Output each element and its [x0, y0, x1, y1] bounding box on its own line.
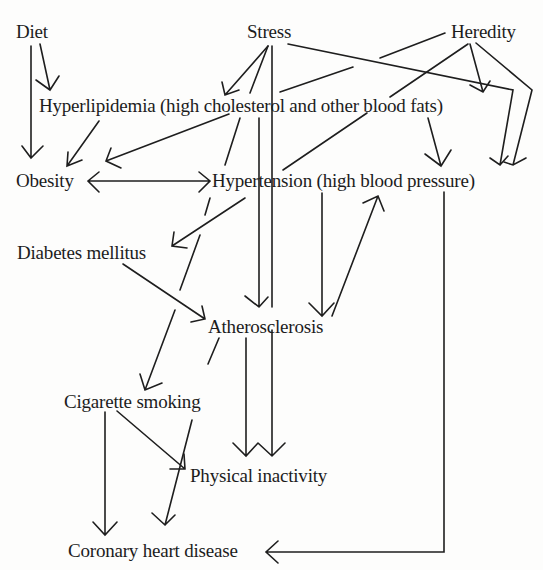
edge-stress-hyperlipidemia — [222, 46, 268, 95]
edge-hypertension-atherosclerosis — [309, 193, 334, 316]
edge-atherosclerosis-hypertension — [332, 196, 384, 316]
edge-heredity-pressure — [476, 43, 532, 165]
edge-obesity-hypertension — [88, 172, 210, 192]
edge-heredity-line — [280, 33, 445, 92]
edge-stress-line-a — [250, 46, 268, 93]
edge-heredity-other — [390, 44, 468, 97]
edge-hyperlipidemia-obesity — [67, 121, 99, 166]
edge-smoking-inactivity — [117, 411, 185, 469]
node-physical-inactivity: Physical inactivity — [190, 466, 327, 485]
node-atherosclerosis: Atherosclerosis — [208, 317, 323, 336]
edge-pressure-chd — [266, 192, 444, 563]
node-heredity: Heredity — [451, 22, 516, 41]
edge-atherosclerosis-chd — [152, 338, 219, 525]
node-hyperlipidemia: Hyperlipidemia (high cholesterol and oth… — [39, 96, 443, 115]
node-diabetes: Diabetes mellitus — [17, 243, 146, 262]
edge-fats-pressure — [425, 118, 451, 166]
node-coronary-heart-disease: Coronary heart disease — [68, 541, 238, 560]
edge-smoking-chd — [93, 412, 117, 535]
node-obesity: Obesity — [16, 171, 74, 190]
node-diet: Diet — [16, 22, 48, 41]
edge-hyperlipidemia-obesity-2 — [106, 114, 229, 168]
edge-chol-down-a — [225, 118, 240, 165]
edge-atherosclerosis-inactivity — [233, 330, 285, 456]
edge-chol-down-b — [245, 118, 268, 307]
edge-diabetes-atherosclerosis — [123, 264, 205, 322]
node-stress: Stress — [247, 22, 291, 41]
edge-diet-hyperlipidemia — [36, 44, 59, 90]
edge-other-hypertension — [283, 113, 367, 170]
node-hypertension: Hypertension (high blood pressure) — [212, 171, 475, 190]
node-cigarette-smoking: Cigarette smoking — [64, 392, 200, 411]
edge-hypertension-smoking — [140, 198, 210, 390]
diagram-canvas: Diet Stress Heredity Hyperlipidemia (hig… — [0, 0, 543, 570]
